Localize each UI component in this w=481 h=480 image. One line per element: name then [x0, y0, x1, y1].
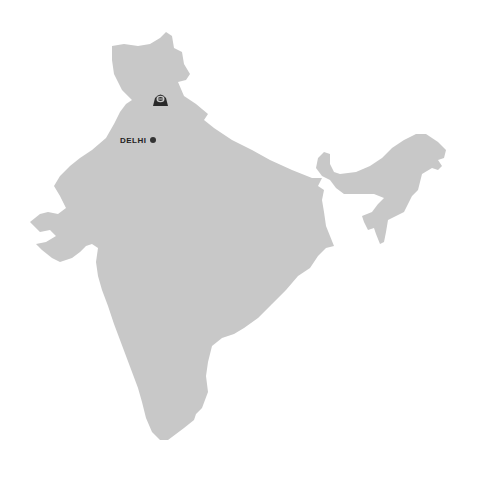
- landmark-badge-icon: [153, 92, 168, 106]
- city-label-delhi: DELHI: [120, 136, 147, 145]
- india-mainland: [30, 32, 334, 440]
- city-marker-dot: [150, 137, 156, 143]
- india-northeast: [316, 134, 446, 244]
- india-map: [0, 0, 481, 480]
